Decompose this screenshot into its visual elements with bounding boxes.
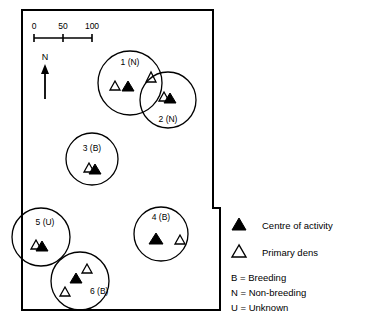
legend-entry-label-0: Centre of activity (262, 220, 333, 231)
legend-abbreviation-non-breeding: N = Non-breeding (231, 287, 306, 298)
scale-bar: 0 50 100 (32, 21, 100, 42)
figure-canvas: 0 50 100 N 1 (N) 2 (N) 3 (B) (0, 0, 383, 331)
map-boundary (22, 10, 220, 310)
territory-6: 6 (B) (51, 252, 109, 310)
territory-3-range-circle (66, 133, 118, 185)
legend-centre-of-activity-icon (232, 218, 246, 230)
territory-3-label: 3 (B) (83, 143, 102, 153)
territory-2: 2 (N) (140, 72, 196, 128)
centre-of-activity-icon (149, 233, 163, 244)
legend-abbreviation-unknown: U = Unknown (231, 302, 288, 313)
primary-den-icon (60, 287, 70, 296)
territory-6-label: 6 (B) (90, 286, 109, 296)
territory-4: 4 (B) (134, 207, 188, 261)
north-arrow-label: N (42, 52, 49, 62)
centre-of-activity-icon (122, 81, 134, 91)
scale-tick-50: 50 (58, 21, 68, 31)
legend-primary-den-icon (232, 245, 246, 257)
scale-tick-100: 100 (85, 21, 99, 31)
territory-3: 3 (B) (66, 133, 118, 185)
north-arrow-icon: N (41, 52, 49, 99)
territory-map-figure: 0 50 100 N 1 (N) 2 (N) 3 (B) (0, 0, 383, 331)
territory-1-label: 1 (N) (121, 57, 140, 67)
legend-entry-label-1: Primary dens (262, 247, 318, 258)
territory-5: 5 (U) (12, 208, 70, 266)
legend: Centre of activity Primary dens B = Bree… (231, 218, 333, 313)
centre-of-activity-icon (70, 273, 82, 283)
primary-den-icon (110, 81, 120, 90)
scale-tick-0: 0 (32, 21, 37, 31)
territory-4-label: 4 (B) (152, 212, 171, 222)
territory-2-label: 2 (N) (159, 114, 178, 124)
primary-den-icon (175, 235, 185, 244)
territory-5-label: 5 (U) (36, 217, 55, 227)
legend-abbreviation-breeding: B = Breeding (231, 272, 286, 283)
territory-1: 1 (N) (98, 51, 162, 115)
primary-den-icon (82, 264, 92, 273)
